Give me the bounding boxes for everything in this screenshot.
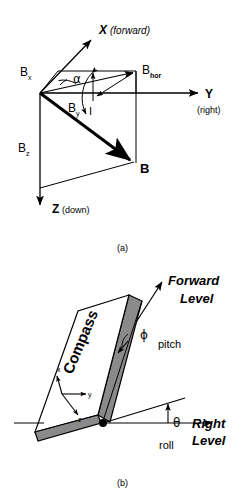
label-bhor-subscript: hor	[150, 72, 162, 79]
label-bz-subscript: z	[26, 150, 30, 157]
label-b-total: B	[140, 161, 149, 176]
pitch-label: pitch	[158, 338, 181, 350]
roll-label: roll	[159, 439, 174, 451]
axis-x-note: (forward)	[110, 25, 150, 36]
vector-b-total-arrow	[40, 93, 130, 160]
triad-z-label: z	[78, 416, 82, 423]
axis-x-label: X	[98, 23, 108, 37]
axis-z-label: Z	[52, 202, 59, 216]
panel-a-magnetic-field-diagram: X (forward) Y (right) Z (down) B x B y B…	[0, 0, 245, 240]
caption-b: (b)	[0, 478, 245, 488]
figure-root: X (forward) Y (right) Z (down) B x B y B…	[0, 0, 245, 501]
panel-b-compass-orientation-diagram: Compass Forward Level pitch ϕ Right Leve…	[0, 255, 245, 485]
axis-y-label: Y	[205, 87, 213, 101]
label-bx-subscript: x	[28, 74, 32, 81]
axis-z-note: (down)	[62, 205, 90, 215]
angle-theta-label: θ	[173, 416, 180, 430]
label-bx: B	[20, 65, 28, 79]
label-by: B	[68, 101, 76, 115]
caption-a: (a)	[0, 243, 245, 253]
triad-y-label: y	[88, 391, 92, 399]
label-bz: B	[18, 141, 26, 155]
axis-y-note: (right)	[197, 105, 221, 115]
triad-x-label: x	[57, 366, 61, 373]
label-by-subscript: y	[76, 110, 80, 118]
forward-level-label: Level	[180, 291, 214, 306]
forward-label: Forward	[168, 273, 220, 288]
axis-x-arrow	[40, 40, 91, 93]
right-label: Right	[192, 416, 226, 431]
right-level-label: Level	[192, 433, 226, 448]
label-angle-alpha: α	[73, 72, 81, 86]
angle-phi-label: ϕ	[140, 328, 148, 342]
label-angle-inclination: I	[89, 105, 92, 117]
base-plane-line	[40, 162, 134, 188]
label-bhor: B	[142, 63, 150, 77]
